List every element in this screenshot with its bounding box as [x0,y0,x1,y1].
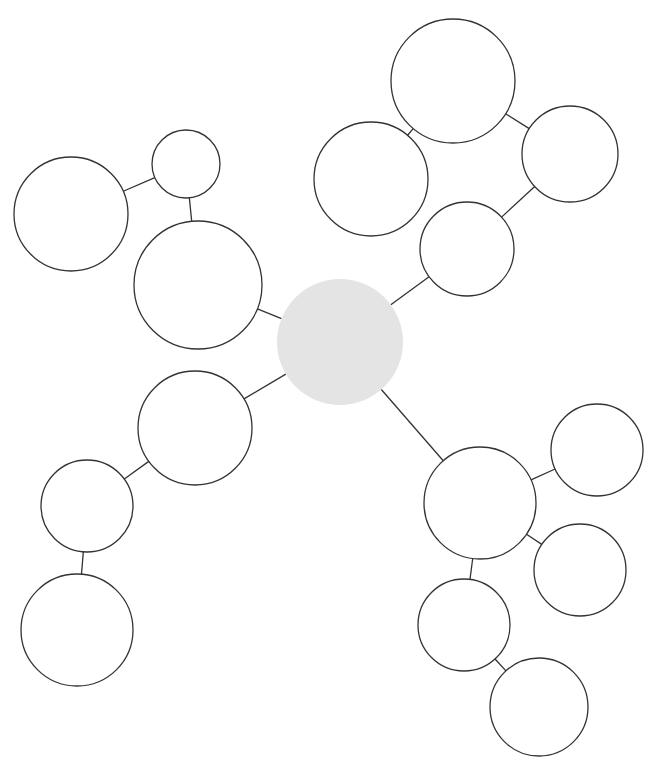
topic-bubble-lr-top [551,404,643,496]
connector-line [82,552,84,574]
connector-line [502,187,535,218]
connector-line [470,559,473,580]
topic-bubble-ur-hub [420,202,514,296]
central-topic-bubble [277,279,403,405]
connector-line [527,534,542,544]
topic-bubble-ll-mid [41,460,133,552]
topic-bubble-ul-hub [134,221,262,349]
topic-bubble-lr-mid [534,524,626,616]
connector-line [531,469,555,480]
bubble-nodes [14,19,643,756]
topic-bubble-ur-left [314,122,428,236]
topic-bubble-ul-small [152,130,220,198]
connector-line [408,129,414,136]
topic-bubble-ur-top [391,19,515,143]
connector-line [189,198,191,221]
connector-line [124,461,149,479]
connector-line [506,114,530,129]
topic-bubble-ul-far [14,157,128,271]
topic-bubble-ur-right [522,106,618,202]
mind-map-canvas [0,0,655,770]
mind-map-diagram [0,0,655,770]
connector-line [257,309,281,319]
connector-line [123,178,155,192]
topic-bubble-ll-bottom [21,574,133,686]
connector-line [244,374,286,399]
topic-bubble-lr-hub [424,447,536,559]
connector-line [391,277,429,305]
topic-bubble-lr-low [418,579,510,671]
topic-bubble-lr-bottom [490,658,588,756]
connector-line [381,390,443,461]
connector-line [495,659,506,671]
topic-bubble-ll-hub [138,371,252,485]
